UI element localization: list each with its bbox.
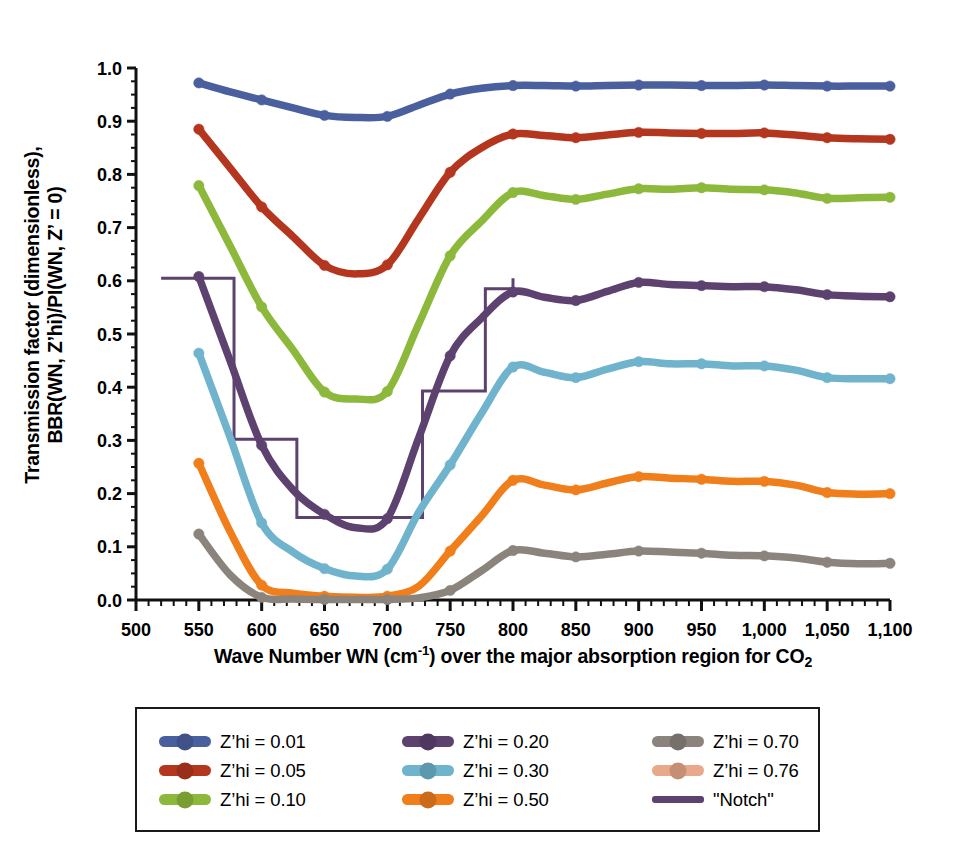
x-axis-title-mid: ) over the major absorption region for C… — [429, 645, 804, 667]
series-3 — [194, 271, 896, 529]
y-axis-title-line2: BBR(WN, Z’hi)/PI(WN, Z’ = 0) — [44, 186, 66, 443]
series-marker — [571, 81, 581, 91]
legend-item[interactable]: Z’hi = 0.10 — [159, 789, 402, 811]
series-marker — [256, 580, 266, 590]
legend-item[interactable]: Z’hi = 0.20 — [402, 731, 652, 753]
series-marker — [445, 167, 455, 177]
series-marker — [822, 487, 832, 497]
legend-item[interactable]: Z’hi = 0.70 — [652, 731, 804, 753]
series-marker — [445, 89, 455, 99]
legend-item[interactable]: Z’hi = 0.30 — [402, 760, 652, 782]
series-marker — [382, 111, 392, 121]
chart-legend: Z’hi = 0.01Z’hi = 0.20Z’hi = 0.70Z’hi = … — [135, 707, 820, 832]
x-tick-label: 750 — [435, 620, 465, 640]
legend-item[interactable]: Z’hi = 0.05 — [159, 760, 402, 782]
legend-swatch-icon — [159, 794, 211, 805]
legend-item[interactable]: "Notch" — [652, 789, 804, 811]
legend-grid: Z’hi = 0.01Z’hi = 0.20Z’hi = 0.70Z’hi = … — [159, 727, 804, 814]
x-axis-title-sub: 2 — [804, 654, 812, 670]
series-marker — [508, 545, 518, 555]
y-tick-label: 1.0 — [97, 59, 122, 79]
series-marker — [445, 460, 455, 470]
series-marker — [696, 280, 706, 290]
series-marker — [319, 110, 329, 120]
series-marker — [696, 548, 706, 558]
series-marker — [633, 80, 643, 90]
x-tick-label: 1,000 — [742, 620, 787, 640]
y-tick-label: 0.4 — [97, 378, 122, 398]
legend-swatch-icon — [652, 736, 704, 747]
series-marker — [885, 488, 895, 498]
series-line — [199, 83, 890, 118]
series-marker — [633, 127, 643, 137]
x-tick-label: 850 — [561, 620, 591, 640]
series-marker — [633, 184, 643, 194]
x-tick-label: 800 — [498, 620, 528, 640]
legend-swatch-icon — [652, 796, 704, 803]
legend-marker-icon — [177, 791, 194, 808]
y-axis-title-line1: Transmission factor (dimensionless), — [21, 146, 43, 483]
series-marker — [696, 80, 706, 90]
series-marker — [194, 348, 204, 358]
series-marker — [382, 594, 392, 604]
legend-item-label: Z’hi = 0.05 — [220, 760, 306, 782]
series-marker — [445, 585, 455, 595]
legend-item-label: Z’hi = 0.50 — [463, 789, 549, 811]
legend-item-label: Z’hi = 0.76 — [713, 760, 799, 782]
y-tick-label: 0.1 — [97, 537, 122, 557]
series-line — [199, 534, 890, 600]
legend-marker-icon — [670, 733, 687, 750]
series-line — [199, 277, 890, 530]
legend-marker-icon — [177, 733, 194, 750]
legend-swatch-icon — [159, 736, 211, 747]
line-chart-svg: 0.00.10.20.30.40.50.60.70.80.91.05005506… — [0, 0, 962, 690]
x-tick-label: 550 — [184, 620, 214, 640]
y-tick-label: 0.5 — [97, 325, 122, 345]
series-marker — [885, 373, 895, 383]
series-marker — [759, 551, 769, 561]
x-tick-label: 700 — [372, 620, 402, 640]
legend-marker-icon — [420, 791, 437, 808]
series-line — [199, 129, 890, 274]
y-tick-label: 0.7 — [97, 218, 122, 238]
series-marker — [696, 183, 706, 193]
series-marker — [822, 372, 832, 382]
series-marker — [822, 557, 832, 567]
series-marker — [571, 132, 581, 142]
y-tick-label: 0.0 — [97, 591, 122, 611]
series-marker — [633, 546, 643, 556]
series-marker — [633, 471, 643, 481]
legend-marker-icon — [670, 762, 687, 779]
legend-swatch-icon — [402, 736, 454, 747]
legend-swatch-icon — [159, 765, 211, 776]
series-marker — [696, 359, 706, 369]
legend-item-label: "Notch" — [713, 789, 774, 811]
x-axis-title-sup: -1 — [418, 643, 429, 658]
series-marker — [382, 513, 392, 523]
series-5 — [194, 458, 896, 601]
x-tick-label: 1,050 — [805, 620, 850, 640]
series-0 — [194, 78, 896, 122]
series-marker — [571, 295, 581, 305]
series-marker — [319, 563, 329, 573]
legend-item[interactable]: Z’hi = 0.50 — [402, 789, 652, 811]
series-marker — [759, 476, 769, 486]
series-marker — [382, 260, 392, 270]
legend-item[interactable]: Z’hi = 0.76 — [652, 760, 804, 782]
series-marker — [571, 372, 581, 382]
series-marker — [508, 129, 518, 139]
series-marker — [885, 134, 895, 144]
series-marker — [508, 187, 518, 197]
legend-item-label: Z’hi = 0.20 — [463, 731, 549, 753]
series-marker — [696, 128, 706, 138]
chart-plot-area: 0.00.10.20.30.40.50.60.70.80.91.05005506… — [0, 0, 962, 690]
series-marker — [508, 287, 518, 297]
series-line — [199, 353, 890, 577]
series-marker — [571, 194, 581, 204]
series-marker — [885, 292, 895, 302]
series-marker — [445, 251, 455, 261]
legend-item[interactable]: Z’hi = 0.01 — [159, 731, 402, 753]
series-marker — [759, 80, 769, 90]
series-marker — [822, 193, 832, 203]
series-marker — [194, 78, 204, 88]
